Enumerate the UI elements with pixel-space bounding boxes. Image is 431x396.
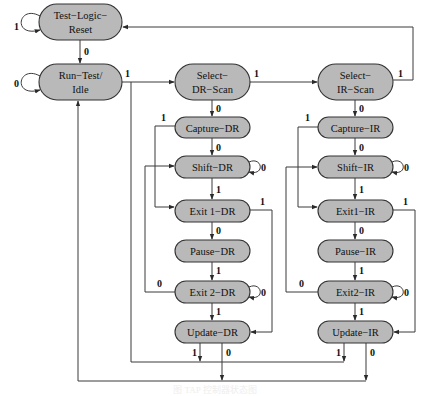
- edge-e2dr-self: [249, 286, 260, 298]
- state-run-test-idle: Run−Test/ Idle: [39, 64, 122, 100]
- label-pir-e2ir: 1: [359, 265, 364, 276]
- svg-text:Shift−IR: Shift−IR: [337, 162, 374, 173]
- label-udr-0: 0: [226, 347, 231, 358]
- edge-e2ir-shir: [286, 167, 319, 292]
- svg-text:Pause−IR: Pause−IR: [335, 246, 376, 257]
- svg-text:Pause−DR: Pause−DR: [190, 246, 235, 257]
- label-sdr-sir: 1: [254, 68, 259, 79]
- label-tlr-self: 1: [14, 21, 19, 32]
- edge-tlr-self: [21, 13, 40, 31]
- svg-text:Capture−DR: Capture−DR: [186, 123, 240, 134]
- label-e2dr-self: 0: [261, 287, 266, 298]
- svg-text:Test−Logic−: Test−Logic−: [54, 10, 108, 21]
- svg-text:Shift−DR: Shift−DR: [192, 162, 233, 173]
- state-update-ir: Update−IR: [318, 321, 393, 343]
- svg-text:Select−: Select−: [197, 70, 229, 81]
- label-shir-e1ir: 1: [359, 184, 364, 195]
- label-shir-self: 0: [404, 162, 409, 173]
- label-sdr-cdr: 0: [216, 103, 221, 114]
- edge-shir-self: [392, 161, 403, 173]
- svg-text:IR−Scan: IR−Scan: [337, 84, 375, 95]
- edge-e2dr-shdr: [145, 166, 176, 292]
- label-sir-cir: 0: [359, 103, 364, 114]
- label-rti-sdr: 1: [125, 68, 130, 79]
- edge-e2ir-self: [392, 286, 403, 298]
- label-cdr-shdr: 0: [216, 142, 221, 153]
- state-update-dr: Update−DR: [175, 321, 250, 343]
- svg-text:Update−DR: Update−DR: [187, 327, 238, 338]
- label-e2dr-udr: 1: [216, 306, 221, 317]
- svg-text:Select−: Select−: [340, 70, 372, 81]
- state-pause-ir: Pause−IR: [318, 240, 393, 262]
- label-tlr-rti: 0: [84, 46, 89, 57]
- state-shift-ir: Shift−IR: [318, 156, 393, 178]
- svg-text:Exit 1−DR: Exit 1−DR: [190, 206, 236, 217]
- state-pause-dr: Pause−DR: [175, 240, 250, 262]
- edge-rti-self: [21, 73, 40, 91]
- label-shdr-self: 0: [261, 162, 266, 173]
- label-rti-self: 0: [14, 78, 19, 89]
- label-e2ir-self: 0: [404, 287, 409, 298]
- edge-e1dr-udr: [250, 210, 272, 332]
- edge-shdr-self: [249, 161, 260, 173]
- label-pdr-e2dr: 1: [216, 265, 221, 276]
- state-select-ir-scan: Select− IR−Scan: [318, 64, 393, 100]
- svg-text:Exit2−IR: Exit2−IR: [336, 287, 375, 298]
- svg-text:Update−IR: Update−IR: [332, 327, 379, 338]
- tap-state-diagram: Test−Logic− Reset Run−Test/ Idle Select−…: [0, 0, 431, 396]
- edge-e1ir-uir: [393, 210, 415, 332]
- label-e1dr-pdr: 0: [216, 225, 221, 236]
- figure-caption: 图 TAP 控制器状态图: [173, 384, 256, 395]
- label-e1ir-pir: 0: [359, 225, 364, 236]
- label-e2ir-shir: 0: [299, 278, 304, 289]
- label-e2ir-uir: 1: [359, 306, 364, 317]
- state-shift-dr: Shift−DR: [175, 156, 250, 178]
- svg-text:Reset: Reset: [69, 24, 92, 35]
- svg-text:Run−Test/: Run−Test/: [59, 70, 103, 81]
- label-e1ir-uir: 1: [403, 196, 408, 207]
- state-select-dr-scan: Select− DR−Scan: [175, 64, 250, 100]
- svg-text:DR−Scan: DR−Scan: [192, 84, 234, 95]
- label-e1dr-udr: 1: [260, 196, 265, 207]
- label-cir-e1ir: 1: [305, 112, 310, 123]
- label-sir-tlr: 1: [398, 68, 403, 79]
- state-test-logic-reset: Test−Logic− Reset: [39, 4, 122, 40]
- label-e2dr-shdr: 0: [157, 278, 162, 289]
- label-cir-shir: 0: [359, 142, 364, 153]
- svg-text:Capture−IR: Capture−IR: [331, 123, 381, 134]
- svg-text:Exit1−IR: Exit1−IR: [336, 206, 375, 217]
- label-shdr-e1dr: 1: [216, 184, 221, 195]
- label-uir-1: 1: [336, 347, 341, 358]
- state-exit2-ir: Exit2−IR: [318, 281, 393, 303]
- nodes: Test−Logic− Reset Run−Test/ Idle Select−…: [39, 4, 393, 343]
- state-exit1-ir: Exit1−IR: [318, 200, 393, 222]
- label-uir-0: 0: [370, 347, 375, 358]
- state-exit1-dr: Exit 1−DR: [175, 200, 250, 222]
- svg-text:Idle: Idle: [72, 84, 89, 95]
- state-capture-ir: Capture−IR: [318, 117, 393, 138]
- label-udr-1: 1: [192, 347, 197, 358]
- label-cdr-e1dr: 1: [161, 112, 166, 123]
- state-capture-dr: Capture−DR: [175, 117, 250, 138]
- state-exit2-dr: Exit 2−DR: [175, 281, 250, 303]
- svg-text:Exit 2−DR: Exit 2−DR: [190, 287, 236, 298]
